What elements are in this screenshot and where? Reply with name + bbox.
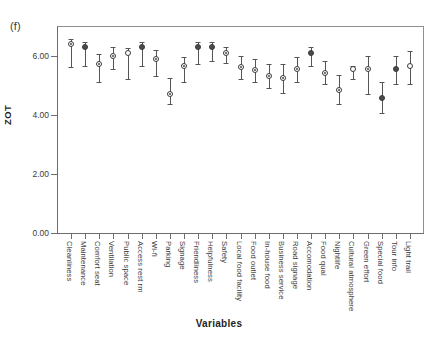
error-bar-cap	[266, 64, 271, 65]
error-bar-cap	[125, 79, 130, 80]
error-bar-cap	[97, 82, 102, 83]
y-tick-label: 6.00	[9, 51, 49, 61]
error-bar-cap	[111, 47, 116, 48]
x-tick	[297, 233, 298, 239]
error-bar-cap	[351, 79, 356, 80]
x-tick	[396, 233, 397, 239]
y-axis-title: ZOT	[2, 105, 13, 125]
error-bar-cap	[97, 54, 102, 55]
error-bar-cap	[210, 61, 215, 62]
x-tick	[255, 233, 256, 239]
data-point	[96, 61, 102, 67]
error-bar-cap	[280, 93, 285, 94]
x-tick-label: Accomodation	[305, 241, 314, 290]
error-bar-cap	[407, 51, 412, 52]
data-point	[223, 50, 229, 56]
error-bar-cap	[196, 64, 201, 65]
y-tick	[51, 56, 58, 57]
error-bar-cap	[182, 57, 187, 58]
data-point	[407, 63, 413, 69]
x-tick	[325, 233, 326, 239]
data-point	[195, 44, 201, 50]
error-bar-cap	[323, 61, 328, 62]
x-tick	[128, 233, 129, 239]
error-bar-cap	[69, 67, 74, 68]
x-tick	[368, 233, 369, 239]
x-tick	[170, 233, 171, 239]
x-tick-label: Public space	[122, 241, 131, 285]
error-bar-cap	[139, 66, 144, 67]
error-bar-cap	[252, 59, 257, 60]
x-tick	[212, 233, 213, 239]
data-point	[350, 66, 356, 72]
x-tick-label: Tour info	[390, 241, 399, 271]
y-tick-label: 0.00	[9, 228, 49, 238]
x-tick-label: Food qual	[319, 241, 328, 276]
error-bar-cap	[309, 66, 314, 67]
x-tick-label: Road signage	[291, 241, 300, 289]
data-point	[68, 41, 74, 47]
error-bar-cap	[309, 47, 314, 48]
x-axis-title: Variables	[0, 318, 438, 329]
error-bar-cap	[280, 64, 285, 65]
error-bar-cap	[238, 79, 243, 80]
error-bar	[184, 57, 185, 82]
error-bar-cap	[153, 50, 158, 51]
error-bar-cap	[238, 56, 243, 57]
x-tick-label: Light trail	[404, 241, 413, 273]
error-bar-cap	[323, 84, 328, 85]
error-bar-cap	[224, 63, 229, 64]
error-bar-cap	[337, 75, 342, 76]
x-tick	[226, 233, 227, 239]
x-tick	[184, 233, 185, 239]
x-tick	[410, 233, 411, 239]
y-tick-label: 4.00	[9, 110, 49, 120]
error-bar-cap	[111, 69, 116, 70]
x-tick-label: Green effort	[362, 241, 371, 283]
data-point	[125, 50, 131, 56]
x-tick-label: Signage	[178, 241, 187, 270]
error-bar-cap	[167, 104, 172, 105]
data-point	[181, 63, 187, 69]
x-tick-label: Helpfulness	[206, 241, 215, 282]
x-tick-label: Cleanliness	[65, 241, 74, 281]
error-bar	[368, 56, 369, 94]
x-tick-label: Wi-fi	[150, 241, 159, 257]
error-bar-cap	[365, 94, 370, 95]
x-tick	[269, 233, 270, 239]
error-bar-cap	[153, 76, 158, 77]
error-bar-cap	[337, 104, 342, 105]
x-tick-label: Cultural atmosphere	[347, 241, 356, 311]
error-bar-cap	[266, 88, 271, 89]
error-bar-cap	[224, 47, 229, 48]
data-point	[308, 50, 314, 56]
data-point	[322, 70, 328, 76]
error-bar-cap	[83, 66, 88, 67]
x-tick-label: Maintenance	[79, 241, 88, 286]
x-tick-label: Food outlet	[249, 241, 258, 280]
data-point	[252, 67, 258, 73]
x-tick	[311, 233, 312, 239]
x-tick-label: Safety	[220, 241, 229, 263]
x-tick	[71, 233, 72, 239]
x-tick	[198, 233, 199, 239]
error-bar-cap	[379, 82, 384, 83]
x-tick	[283, 233, 284, 239]
x-tick-label: Parking	[164, 241, 173, 267]
x-tick	[339, 233, 340, 239]
data-point	[153, 56, 159, 62]
x-tick	[99, 233, 100, 239]
error-bar-cap	[365, 56, 370, 57]
panel-label: (f)	[10, 20, 21, 32]
x-tick	[85, 233, 86, 239]
x-tick	[382, 233, 383, 239]
y-tick	[51, 233, 58, 234]
data-point	[393, 66, 399, 72]
x-tick	[241, 233, 242, 239]
x-tick	[142, 233, 143, 239]
x-tick-label: Access rest rm	[136, 241, 145, 293]
error-bar-cap	[252, 82, 257, 83]
data-point	[336, 87, 342, 93]
x-tick-label: Ventilation	[107, 241, 116, 277]
data-point	[167, 91, 173, 97]
